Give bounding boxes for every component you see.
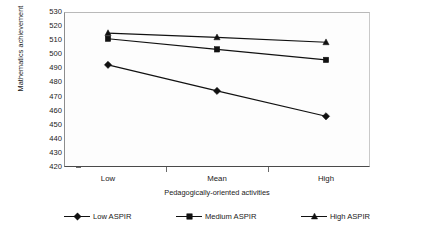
y-tick-label: 420	[22, 163, 62, 171]
x-tick-label: Low	[73, 174, 143, 183]
triangle-icon	[310, 212, 319, 221]
legend-label: Medium ASPIR	[205, 212, 257, 221]
chart-legend: Low ASPIRMedium ASPIRHigh ASPIR	[64, 212, 370, 221]
plot-area	[64, 12, 370, 167]
legend-item[interactable]: Medium ASPIR	[176, 212, 257, 221]
legend-label: High ASPIR	[330, 212, 370, 221]
y-tick-label: 530	[22, 8, 62, 16]
x-tick-mark	[268, 167, 269, 172]
y-tick-label: 510	[22, 36, 62, 44]
y-tick-label: 470	[22, 93, 62, 101]
legend-item[interactable]: High ASPIR	[301, 212, 370, 221]
y-axis-tick-labels: 530520510500490480470460450440430420	[18, 0, 62, 238]
y-tick-label: 450	[22, 121, 62, 129]
x-tick-label: High	[291, 174, 361, 183]
y-tick-label: 520	[22, 22, 62, 30]
legend-key	[176, 212, 202, 221]
square-marker	[187, 214, 192, 219]
legend-key	[301, 212, 327, 221]
y-tick-label: 480	[22, 78, 62, 86]
diamond-icon	[73, 212, 82, 221]
square-icon	[185, 212, 194, 221]
diamond-marker	[74, 213, 81, 220]
x-axis-title: Pedagogically-oriented activities	[64, 188, 370, 197]
y-tick-label: 430	[22, 149, 62, 157]
x-tick-mark	[166, 167, 167, 172]
y-tick-label: 490	[22, 64, 62, 72]
triangle-marker	[311, 213, 317, 219]
legend-item[interactable]: Low ASPIR	[64, 212, 131, 221]
y-tick-mark	[76, 167, 81, 168]
x-tick-label: Mean	[182, 174, 252, 183]
legend-label: Low ASPIR	[93, 212, 131, 221]
legend-key	[64, 212, 90, 221]
y-tick-label: 440	[22, 135, 62, 143]
y-tick-label: 460	[22, 107, 62, 115]
line-chart-figure: Mathematics achievement 5305205105004904…	[0, 0, 438, 238]
y-tick-label: 500	[22, 50, 62, 58]
